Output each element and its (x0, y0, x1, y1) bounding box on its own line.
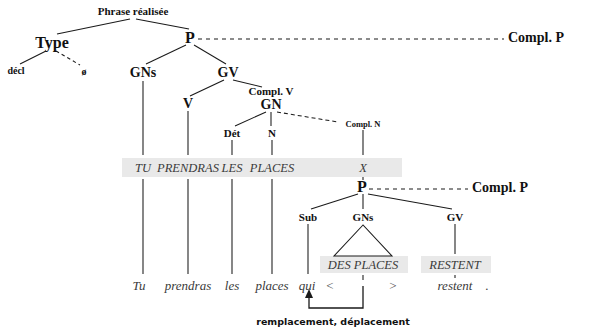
label-compl-v: Compl. V (248, 86, 293, 97)
node-gns-lower: GNs (353, 212, 374, 223)
trace-bracket-close: > (389, 279, 396, 292)
node-decl: décl (7, 66, 24, 76)
node-gns-upper: GNs (130, 66, 156, 80)
node-p-lower: P (357, 179, 367, 195)
edge-gv1-v1 (190, 80, 224, 96)
edge-root-type (57, 19, 130, 34)
trace-bracket-open: < (326, 279, 333, 292)
surface-period: . (485, 279, 488, 292)
edge-p2-gv2 (368, 194, 452, 209)
edge-type-decl (20, 51, 46, 64)
band-item-places: PLACES (250, 162, 294, 175)
edge-type-zero (56, 51, 80, 65)
label-compl-p-lower: Compl. P (472, 181, 528, 195)
edge-gn1-compln (277, 112, 338, 122)
label-compl-p-upper: Compl. P (508, 31, 564, 45)
movement-annotation-label: remplacement, déplacement (256, 317, 410, 327)
node-sub: Sub (299, 212, 317, 223)
node-v-upper: V (183, 97, 193, 111)
root-label: Phrase réalisée (98, 6, 169, 17)
node-gv-lower: GV (447, 212, 464, 223)
gns2-triangle (334, 225, 392, 256)
band-item-restent: RESTENT (429, 259, 480, 272)
surface-word-tu: Tu (132, 279, 145, 292)
band-item-x: X (359, 162, 367, 175)
band-item-des-places: DES PLACES (328, 259, 398, 272)
edge-gn1-det1 (235, 112, 266, 126)
band-item-les: LES (222, 162, 243, 175)
surface-word-restent: restent (438, 279, 473, 292)
edge-p2-sub (311, 194, 358, 209)
surface-word-places: places (255, 279, 288, 292)
band-item-prendras: PRENDRAS (157, 162, 219, 175)
surface-word-qui: qui (299, 279, 316, 292)
node-zero: ø (82, 67, 87, 77)
node-gn-upper: GN (261, 98, 282, 112)
surface-word-prendras: prendras (165, 279, 211, 292)
node-n-upper: N (268, 128, 276, 139)
surface-word-les: les (225, 279, 239, 292)
edge-p1-gv1 (194, 45, 226, 64)
node-type: Type (35, 35, 68, 51)
syntax-tree-diagram: Phrase réalisée Type décl ø P Compl. P G… (0, 0, 599, 329)
edge-p1-gns1 (146, 45, 186, 64)
node-gv-upper: GV (218, 66, 239, 80)
label-compl-n: Compl. N (346, 120, 381, 129)
edge-root-p (136, 19, 189, 29)
node-det-upper: Dét (224, 128, 241, 139)
movement-arrow-path (309, 286, 363, 308)
band-item-tu: TU (135, 162, 151, 175)
node-p-upper: P (185, 30, 195, 46)
